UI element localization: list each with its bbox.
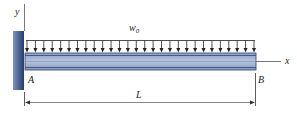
length-label: L — [135, 89, 142, 100]
load-arrow-icon — [75, 48, 79, 53]
load-arrow-icon — [193, 48, 197, 53]
load-arrow-icon — [109, 48, 113, 53]
load-arrow-icon — [210, 48, 214, 53]
beam — [25, 53, 256, 70]
dimension-arrow-left-icon — [25, 101, 30, 105]
load-arrow-icon — [50, 48, 54, 53]
load-arrow-icon — [143, 48, 147, 53]
load-label: w0 — [129, 22, 140, 35]
load-arrow-icon — [160, 48, 164, 53]
dimension-arrow-right-icon — [250, 101, 255, 105]
load-arrow-icon — [59, 48, 63, 53]
fixed-wall-support — [13, 31, 24, 90]
load-arrow-icon — [101, 48, 105, 53]
load-arrow-icon — [42, 48, 46, 53]
distributed-load — [25, 41, 256, 53]
load-arrow-icon — [244, 48, 248, 53]
load-arrow-icon — [235, 48, 239, 53]
load-arrow-icon — [84, 48, 88, 53]
load-arrow-icon — [218, 48, 222, 53]
load-arrow-icon — [134, 48, 138, 53]
load-arrow-icon — [33, 48, 37, 53]
point-a-label: A — [27, 74, 35, 85]
point-b-label: B — [258, 74, 264, 85]
load-arrow-icon — [185, 48, 189, 53]
load-arrow-icon — [227, 48, 231, 53]
load-arrow-icon — [168, 48, 172, 53]
load-arrow-icon — [252, 48, 256, 53]
load-arrow-icon — [67, 48, 71, 53]
load-arrow-icon — [126, 48, 130, 53]
y-axis-label: y — [14, 6, 20, 17]
load-arrow-icon — [117, 48, 121, 53]
load-arrow-icon — [25, 48, 29, 53]
cantilever-diagram: y w0 x A B L — [0, 0, 297, 115]
load-arrow-icon — [92, 48, 96, 53]
load-arrow-icon — [176, 48, 180, 53]
load-arrow-icon — [151, 48, 155, 53]
x-axis-label: x — [284, 55, 290, 66]
load-arrow-icon — [202, 48, 206, 53]
